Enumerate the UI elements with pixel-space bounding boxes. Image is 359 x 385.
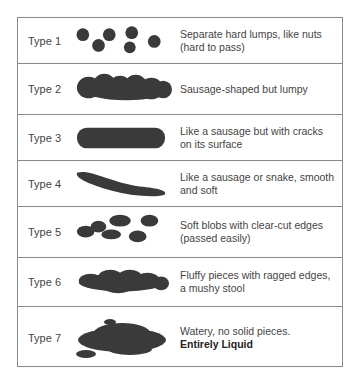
- type-label: Type 3: [28, 132, 61, 144]
- type-1-row: Type 1 Separate hard lumps, like nuts (h…: [18, 18, 342, 64]
- soft-blobs-illustration: [60, 207, 182, 257]
- type-description: Watery, no solid pieces. Entirely Liquid: [180, 325, 336, 351]
- type-3-row: Type 3 Like a sausage but with cracks on…: [18, 115, 342, 161]
- watery-liquid-illustration: [60, 307, 182, 368]
- type-label: Type 2: [28, 83, 61, 95]
- type-description: Fluffy pieces with ragged edges, a mushy…: [180, 269, 336, 295]
- type-description: Like a sausage or snake, smooth and soft: [180, 171, 336, 197]
- type-description: Separate hard lumps, like nuts (hard to …: [180, 28, 336, 54]
- type-description: Soft blobs with clear-cut edges (passed …: [180, 219, 336, 245]
- hard-lumps-illustration: [60, 18, 182, 63]
- lumpy-sausage-illustration: [60, 64, 182, 114]
- type-5-row: Type 5 Soft blobs with clear-cut edges (…: [18, 207, 342, 258]
- type-7-row: Type 7 Watery, no solid pieces. Entirely…: [18, 307, 342, 368]
- type-4-row: Type 4 Like a sausage or snake, smooth a…: [18, 161, 342, 207]
- cracked-sausage-illustration: [60, 115, 182, 160]
- type-label: Type 4: [28, 178, 61, 190]
- type-label: Type 5: [28, 226, 61, 238]
- type-description: Sausage-shaped but lumpy: [180, 83, 336, 96]
- type-6-row: Type 6 Fluffy pieces with ragged edges, …: [18, 258, 342, 307]
- type-2-row: Type 2 Sausage-shaped but lumpy: [18, 64, 342, 115]
- type-description: Like a sausage but with cracks on its su…: [180, 125, 336, 151]
- type-label: Type 6: [28, 276, 61, 288]
- type-label: Type 1: [28, 35, 61, 47]
- type-label: Type 7: [28, 332, 61, 344]
- smooth-snake-illustration: [60, 161, 182, 206]
- stool-type-chart: Type 1 Separate hard lumps, like nuts (h…: [17, 17, 343, 367]
- emphasis-text: Entirely Liquid: [180, 338, 336, 351]
- fluffy-pieces-illustration: [60, 258, 182, 306]
